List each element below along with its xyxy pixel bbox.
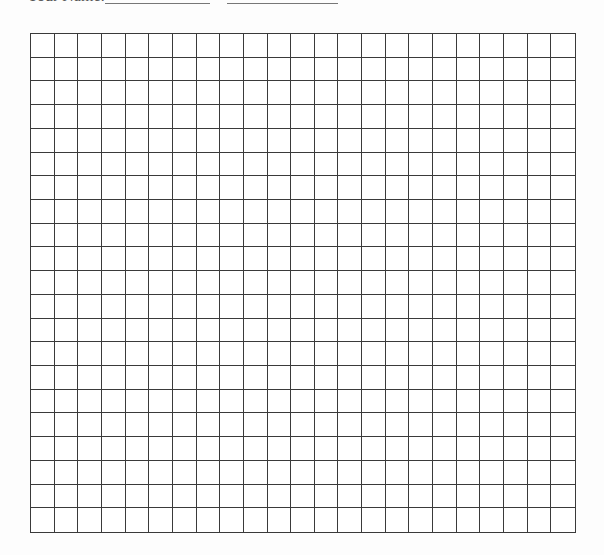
grid-cell	[31, 342, 55, 366]
grid-cell	[362, 34, 386, 58]
name-blank-first[interactable]	[105, 3, 210, 4]
grid-cell	[197, 81, 221, 105]
grid-cell	[149, 247, 173, 271]
grid-cell	[102, 366, 126, 390]
grid-cell	[433, 461, 457, 485]
grid-cell	[220, 437, 244, 461]
grid-cell	[126, 81, 150, 105]
grid-cell	[220, 485, 244, 509]
grid-cell	[433, 390, 457, 414]
grid-cell	[433, 342, 457, 366]
grid-cell	[338, 34, 362, 58]
grid-cell	[433, 153, 457, 177]
grid-cell	[480, 413, 504, 437]
grid-cell	[55, 34, 79, 58]
grid-cell	[244, 295, 268, 319]
grid-cell	[244, 105, 268, 129]
grid-cell	[55, 295, 79, 319]
grid-cell	[220, 413, 244, 437]
grid-cell	[220, 176, 244, 200]
grid-cell	[149, 224, 173, 248]
grid-cell	[55, 271, 79, 295]
grid-cell	[551, 413, 575, 437]
grid-cell	[220, 508, 244, 532]
grid-cell	[173, 176, 197, 200]
grid-cell	[386, 200, 410, 224]
grid-cell	[126, 200, 150, 224]
grid-cell	[102, 485, 126, 509]
grid-cell	[102, 461, 126, 485]
grid-cell	[409, 176, 433, 200]
grid-cell	[268, 342, 292, 366]
grid-cell	[528, 200, 552, 224]
grid-cell	[291, 129, 315, 153]
grid-cell	[291, 247, 315, 271]
grid-cell	[126, 271, 150, 295]
grid-cell	[291, 508, 315, 532]
grid-cell	[551, 129, 575, 153]
grid-cell	[433, 247, 457, 271]
grid-cell	[149, 461, 173, 485]
grid-cell	[220, 366, 244, 390]
grid-cell	[433, 413, 457, 437]
grid-cell	[126, 34, 150, 58]
grid-cell	[31, 176, 55, 200]
grid-cell	[338, 224, 362, 248]
grid-cell	[102, 224, 126, 248]
grid-cell	[173, 485, 197, 509]
grid-cell	[31, 81, 55, 105]
grid-cell	[480, 81, 504, 105]
grid-cell	[220, 271, 244, 295]
grid-cell	[102, 34, 126, 58]
name-blank-second[interactable]	[227, 3, 338, 4]
grid-cell	[244, 271, 268, 295]
grid-cell	[480, 342, 504, 366]
grid-cell	[220, 295, 244, 319]
grid-cell	[31, 485, 55, 509]
grid-cell	[197, 366, 221, 390]
grid-cell	[551, 319, 575, 343]
grid-cell	[268, 413, 292, 437]
grid-cell	[528, 129, 552, 153]
grid-cell	[197, 34, 221, 58]
grid-cell	[102, 247, 126, 271]
grid-cell	[457, 413, 481, 437]
grid-cell	[173, 342, 197, 366]
grid-cell	[220, 319, 244, 343]
grid-cell	[149, 508, 173, 532]
grid-cell	[173, 129, 197, 153]
grid-cell	[457, 153, 481, 177]
grid-cell	[386, 105, 410, 129]
grid-cell	[504, 105, 528, 129]
grid-cell	[457, 271, 481, 295]
grid-cell	[102, 319, 126, 343]
grid-cell	[268, 58, 292, 82]
grid-cell	[244, 200, 268, 224]
grid-cell	[102, 413, 126, 437]
grid-cell	[197, 413, 221, 437]
grid-cell	[551, 295, 575, 319]
grid-cell	[149, 34, 173, 58]
grid-cell	[480, 319, 504, 343]
grid-cell	[409, 342, 433, 366]
grid-cell	[244, 437, 268, 461]
grid-cell	[291, 342, 315, 366]
grid-cell	[551, 81, 575, 105]
grid-cell	[149, 271, 173, 295]
grid-cell	[197, 319, 221, 343]
grid-cell	[457, 508, 481, 532]
grid-cell	[197, 295, 221, 319]
grid-cell	[386, 461, 410, 485]
grid-cell	[338, 129, 362, 153]
grid-cell	[480, 176, 504, 200]
grid-cell	[386, 390, 410, 414]
grid-cell	[433, 271, 457, 295]
grid-cell	[102, 271, 126, 295]
grid-cell	[386, 271, 410, 295]
grid-cell	[315, 34, 339, 58]
grid-cell	[457, 390, 481, 414]
grid-cell	[480, 153, 504, 177]
grid-cell	[528, 105, 552, 129]
grid-cell	[362, 58, 386, 82]
graph-grid	[30, 33, 576, 533]
